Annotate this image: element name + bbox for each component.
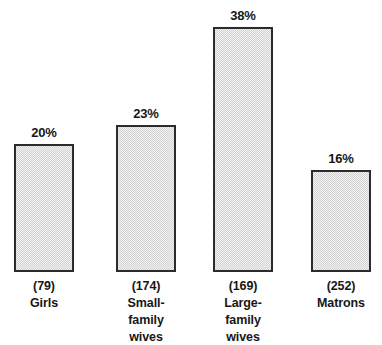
bar-caption: (174) Small-family wives (116, 278, 176, 345)
bar-value-label: 38% (213, 9, 273, 22)
bar-rect[interactable] (311, 170, 371, 272)
bar-group-large-family-wives: 38% (169) Large-family wives (213, 0, 273, 331)
bar-category-label: Matrons (311, 295, 371, 312)
bar-sample-size: (252) (311, 278, 371, 295)
bar-caption: (252) Matrons (311, 278, 371, 312)
bar-category-label: Girls (14, 295, 74, 312)
bar-sample-size: (169) (213, 278, 273, 295)
bar-value-label: 16% (311, 152, 371, 165)
bar-group-small-family-wives: 23% (174) Small-family wives (116, 0, 176, 331)
bar-category-label: Large-family wives (213, 295, 273, 345)
bar-caption: (79) Girls (14, 278, 74, 312)
bar-group-girls: 20% (79) Girls (14, 0, 74, 331)
bar-rect[interactable] (213, 27, 273, 272)
bar-value-label: 23% (116, 107, 176, 120)
bar-sample-size: (174) (116, 278, 176, 295)
bar-rect[interactable] (116, 125, 176, 272)
bar-rect[interactable] (14, 144, 74, 272)
bar-sample-size: (79) (14, 278, 74, 295)
bar-category-label: Small-family wives (116, 295, 176, 345)
bar-value-label: 20% (14, 126, 74, 139)
bar-group-matrons: 16% (252) Matrons (311, 0, 371, 331)
bar-caption: (169) Large-family wives (213, 278, 273, 345)
